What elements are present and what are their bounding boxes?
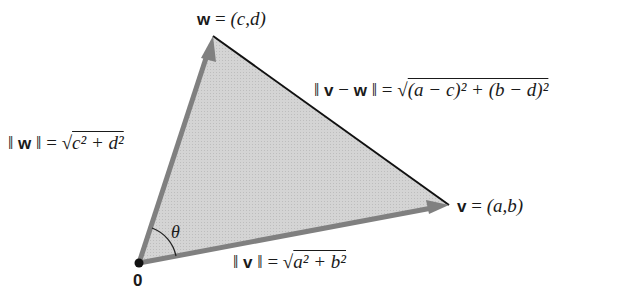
origin-point [135, 259, 144, 268]
minus-sign: − [338, 79, 349, 100]
norm-equals-sqrt: ‖ = √ [36, 132, 72, 153]
equals-sign: = [471, 195, 482, 216]
label-norm-w: ‖ w ‖ = √c² + d² [8, 133, 124, 152]
norm-equals-sqrt: ‖ = √ [372, 79, 408, 100]
w-symbol: w [197, 10, 210, 29]
triangle-fill [139, 36, 449, 263]
norm-w-expression: c² + d² [72, 132, 124, 153]
v-symbol: v [457, 197, 466, 216]
distance-expression: (a − c)² + (b − d)² [408, 79, 549, 100]
v-symbol: v [324, 81, 333, 100]
vector-distance-diagram: w = (c,d) ‖ v − w ‖ = √(a − c)² + (b − d… [0, 0, 644, 297]
label-origin: 0 [133, 272, 142, 289]
v-symbol: v [243, 253, 252, 272]
label-w-coords: w = (c,d) [197, 9, 266, 28]
w-coordinates: (c,d) [230, 8, 265, 29]
norm-bar: ‖ [233, 251, 238, 272]
w-symbol: w [354, 81, 367, 100]
norm-v-expression: a² + b² [293, 251, 346, 272]
label-norm-v: ‖ v ‖ = √a² + b² [233, 252, 346, 271]
v-coordinates: (a,b) [487, 195, 523, 216]
label-theta: θ [171, 223, 180, 241]
label-distance: ‖ v − w ‖ = √(a − c)² + (b − d)² [314, 80, 548, 99]
label-v-coords: v = (a,b) [457, 196, 523, 215]
norm-bar: ‖ [8, 132, 13, 153]
norm-equals-sqrt: ‖ = √ [257, 251, 293, 272]
w-symbol: w [18, 134, 31, 153]
equals-sign: = [215, 8, 226, 29]
norm-bar: ‖ [314, 79, 319, 100]
